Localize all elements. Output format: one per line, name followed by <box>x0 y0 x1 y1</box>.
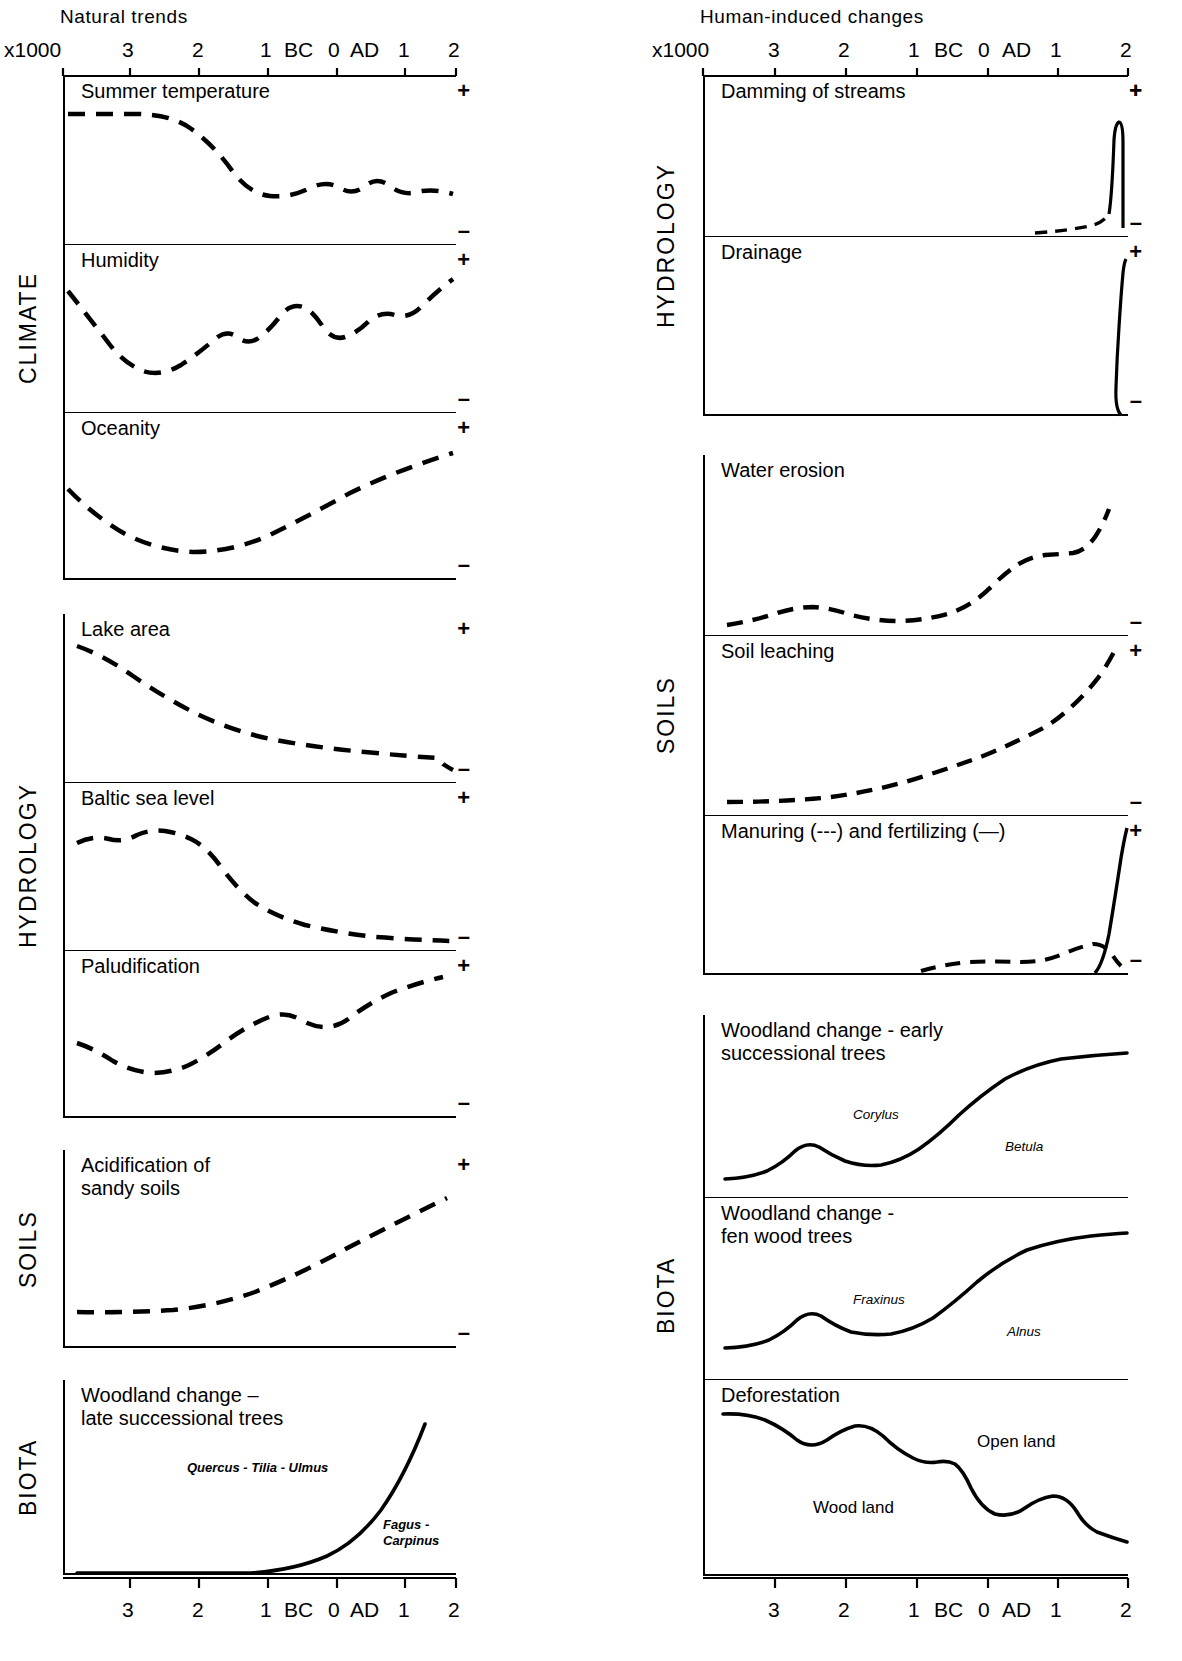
axis-unit-label: x1000 <box>4 38 61 62</box>
panel-woodland-fen-wood[interactable]: Woodland change - fen wood trees Fraxinu… <box>705 1197 1128 1379</box>
panels-biota-human: Woodland change - early successional tre… <box>703 1015 1128 1576</box>
group-biota-human: BIOTA Woodland change - early succession… <box>703 1015 1128 1576</box>
panel-summer-temperature[interactable]: Summer temperature + – <box>65 76 456 244</box>
column-title-natural: Natural trends <box>60 6 188 28</box>
curve-paludification <box>65 951 458 1119</box>
axis-bot-bc: BC <box>934 1598 963 1622</box>
group-label-biota: BIOTA <box>653 1015 680 1576</box>
axis-tick-2ad: 2 <box>1120 38 1132 62</box>
axis-bot-3: 3 <box>768 1598 780 1622</box>
panel-damming-of-streams[interactable]: Damming of streams + – <box>705 76 1128 236</box>
group-hydrology-human: HYDROLOGY Damming of streams + – Drainag… <box>703 76 1128 416</box>
axis-bot-2ad: 2 <box>448 1598 460 1622</box>
axis-tick-0: 0 <box>328 38 340 62</box>
minus-sign: – <box>1130 949 1142 971</box>
panels-climate: Summer temperature + – Humidity + – Ocea… <box>63 76 456 580</box>
curve-water-erosion <box>705 455 1130 635</box>
axis-tick-ad: AD <box>1002 38 1031 62</box>
group-label-soils: SOILS <box>653 455 680 975</box>
group-soils-human: SOILS Water erosion – Soil leaching + – … <box>703 455 1128 975</box>
panels-soils-human: Water erosion – Soil leaching + – Manuri… <box>703 455 1128 975</box>
axis-bot-2: 2 <box>838 1598 850 1622</box>
column-natural-trends: Natural trends x1000 3 2 1 BC 0 AD 1 2 C… <box>0 0 600 1661</box>
minus-sign: – <box>1130 611 1142 633</box>
curve-drainage <box>705 237 1130 417</box>
group-biota-natural: BIOTA Woodland change – late successiona… <box>63 1380 456 1575</box>
axis-bot-0: 0 <box>328 1598 340 1622</box>
column-title-human: Human-induced changes <box>700 6 924 28</box>
curve-deforestation <box>705 1380 1130 1577</box>
axis-unit-label: x1000 <box>652 38 709 62</box>
column-human-induced-changes: Human-induced changes x1000 3 2 1 BC 0 A… <box>600 0 1182 1661</box>
axis-bot-1ad: 1 <box>398 1598 410 1622</box>
minus-sign: – <box>458 1092 470 1114</box>
plus-sign: + <box>457 417 470 439</box>
minus-sign: – <box>458 220 470 242</box>
axis-tick-1ad: 1 <box>1050 38 1062 62</box>
panel-humidity[interactable]: Humidity + – <box>65 244 456 412</box>
axis-tick-2: 2 <box>192 38 204 62</box>
axis-bot-2ad: 2 <box>1120 1598 1132 1622</box>
plus-sign: + <box>457 618 470 640</box>
group-hydrology-natural: HYDROLOGY Lake area + – Baltic sea level… <box>63 614 456 1118</box>
panel-woodland-late-successional[interactable]: Woodland change – late successional tree… <box>65 1380 456 1575</box>
curve-lake-area <box>65 614 458 782</box>
axis-tick-0: 0 <box>978 38 990 62</box>
group-label-hydrology: HYDROLOGY <box>653 76 680 416</box>
group-label-soils: SOILS <box>15 1150 42 1348</box>
plus-sign: + <box>1129 820 1142 842</box>
plus-sign: + <box>457 80 470 102</box>
panel-deforestation[interactable]: Deforestation Open land Wood land <box>705 1379 1128 1576</box>
axis-bot-1: 1 <box>908 1598 920 1622</box>
group-label-climate: CLIMATE <box>15 76 42 580</box>
group-label-biota: BIOTA <box>15 1380 42 1575</box>
minus-sign: – <box>458 758 470 780</box>
panels-hydrology: Lake area + – Baltic sea level + – Palud… <box>63 614 456 1118</box>
axis-tick-1ad: 1 <box>398 38 410 62</box>
axis-bot-2: 2 <box>192 1598 204 1622</box>
panel-manuring-fertilizing[interactable]: Manuring (---) and fertilizing (—) + – <box>705 815 1128 975</box>
panel-baltic-sea-level[interactable]: Baltic sea level + – <box>65 782 456 950</box>
axis-tick-1: 1 <box>260 38 272 62</box>
curve-soil-leaching <box>705 636 1130 816</box>
axis-tick-3: 3 <box>122 38 134 62</box>
axis-tick-bc: BC <box>284 38 313 62</box>
curve-manuring-fertilizing <box>705 816 1130 976</box>
panel-lake-area[interactable]: Lake area + – <box>65 614 456 782</box>
axis-bot-1: 1 <box>260 1598 272 1622</box>
panels-hydrology-human: Damming of streams + – Drainage + – <box>703 76 1128 416</box>
axis-bot-ad: AD <box>350 1598 379 1622</box>
curve-acidification <box>65 1150 458 1348</box>
panel-water-erosion[interactable]: Water erosion – <box>705 455 1128 635</box>
bottom-axis-natural: 3 2 1 BC 0 AD 1 2 <box>0 1598 600 1628</box>
panel-acidification-sandy-soils[interactable]: Acidification of sandy soils + – <box>65 1150 456 1348</box>
plus-sign: + <box>457 1154 470 1176</box>
plus-sign: + <box>457 955 470 977</box>
axis-bot-0: 0 <box>978 1598 990 1622</box>
panel-oceanity[interactable]: Oceanity + – <box>65 412 456 580</box>
plus-sign-below-hydrology: + <box>1129 80 1142 444</box>
curve-summer-temperature <box>65 76 458 244</box>
curve-damming-of-streams <box>705 76 1130 236</box>
curve-baltic-sea-level <box>65 783 458 951</box>
panel-drainage[interactable]: Drainage + – <box>705 236 1128 416</box>
plus-sign: + <box>1129 640 1142 662</box>
axis-tick-3: 3 <box>768 38 780 62</box>
minus-sign: – <box>458 388 470 410</box>
panel-soil-leaching[interactable]: Soil leaching + – <box>705 635 1128 815</box>
panel-paludification[interactable]: Paludification + – <box>65 950 456 1118</box>
curve-woodland-early-successional <box>705 1015 1130 1197</box>
axis-bot-3: 3 <box>122 1598 134 1622</box>
plus-sign: + <box>457 249 470 271</box>
bottom-axis-ticks-human <box>600 1576 1182 1592</box>
minus-sign: – <box>458 926 470 948</box>
group-climate-natural: CLIMATE Summer temperature + – Humidity … <box>63 76 456 580</box>
panel-woodland-early-successional[interactable]: Woodland change - early successional tre… <box>705 1015 1128 1197</box>
panels-biota: Woodland change – late successional tree… <box>63 1380 456 1575</box>
group-label-hydrology: HYDROLOGY <box>15 614 42 1118</box>
axis-tick-2: 2 <box>838 38 850 62</box>
group-soils-natural: SOILS Acidification of sandy soils + – <box>63 1150 456 1348</box>
axis-tick-bc: BC <box>934 38 963 62</box>
axis-bot-1ad: 1 <box>1050 1598 1062 1622</box>
curve-woodland-fen-wood <box>705 1198 1130 1380</box>
